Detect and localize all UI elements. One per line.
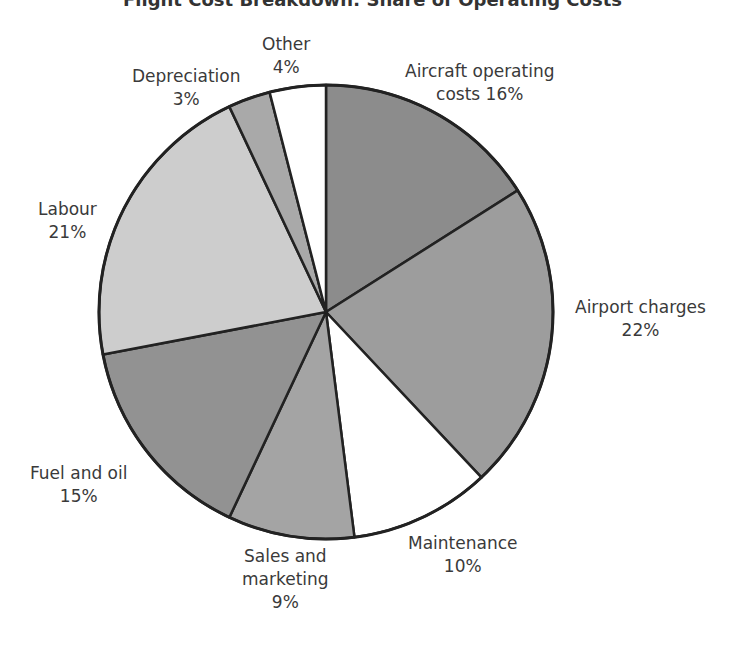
label-text: Other	[262, 33, 310, 56]
label-airport-charges: Airport charges 22%	[575, 296, 706, 342]
label-text: Maintenance	[408, 532, 517, 555]
label-value: 4%	[262, 56, 310, 79]
label-maintenance: Maintenance 10%	[408, 532, 517, 578]
label-text: Sales and	[242, 545, 329, 568]
label-other: Other 4%	[262, 33, 310, 79]
label-value: 21%	[38, 221, 97, 244]
label-labour: Labour 21%	[38, 198, 97, 244]
label-text: marketing	[242, 568, 329, 591]
label-value: 15%	[30, 485, 127, 508]
label-depreciation: Depreciation 3%	[132, 65, 240, 111]
label-text: Aircraft operating	[405, 60, 555, 83]
label-fuel-and-oil: Fuel and oil 15%	[30, 462, 127, 508]
label-value: 10%	[408, 555, 517, 578]
label-text: Fuel and oil	[30, 462, 127, 485]
label-value: 9%	[242, 591, 329, 614]
label-text: Labour	[38, 198, 97, 221]
label-value: 22%	[575, 319, 706, 342]
label-value: costs 16%	[405, 83, 555, 106]
label-text: Airport charges	[575, 296, 706, 319]
label-value: 3%	[132, 88, 240, 111]
label-aircraft-operating-costs: Aircraft operating costs 16%	[405, 60, 555, 106]
label-sales-and-marketing: Sales and marketing 9%	[242, 545, 329, 614]
label-text: Depreciation	[132, 65, 240, 88]
